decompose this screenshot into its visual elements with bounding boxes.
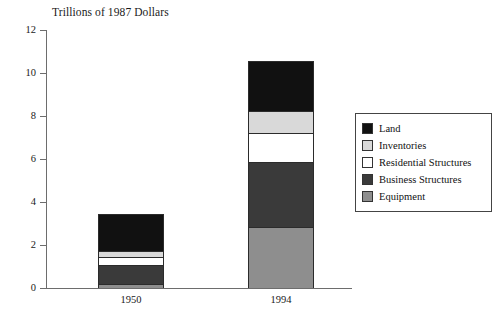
y-axis-tick-label: 8 [2,111,36,121]
y-axis-tick-label-wrap: 8 [0,111,36,121]
bar-segment [249,227,313,288]
legend-item-business-structures[interactable]: Business Structures [362,171,485,187]
legend-item-equipment[interactable]: Equipment [362,188,485,204]
y-axis-tick-label: 2 [2,240,36,250]
bar-segment [99,214,163,252]
legend-label: Residential Structures [379,157,471,168]
y-axis-tick-label-wrap: 0 [0,283,36,293]
plot-bars [46,30,352,288]
y-axis-tick-label: 12 [2,25,36,35]
x-axis-label-1994: 1994 [236,294,326,305]
y-axis-tick-label: 6 [2,154,36,164]
y-axis-tick-label-wrap: 4 [0,197,36,207]
legend-swatch-icon [362,174,373,185]
legend-label: Land [379,123,401,134]
y-axis-tick-label: 4 [2,197,36,207]
y-axis-tick-label-wrap: 12 [0,25,36,35]
chart-title: Trillions of 1987 Dollars [52,6,169,18]
y-axis-tick-label: 0 [2,283,36,293]
legend-swatch-icon [362,140,373,151]
bar-segment [99,265,163,283]
y-axis-tick-label-wrap: 2 [0,240,36,250]
legend-item-inventories[interactable]: Inventories [362,137,485,153]
bar-segment [249,133,313,163]
y-axis-tick [40,288,46,289]
y-axis-tick-label-wrap: 6 [0,154,36,164]
legend-swatch-icon [362,191,373,202]
bar-segment [249,61,313,110]
x-axis-line [46,288,352,289]
legend-label: Inventories [379,140,426,151]
legend-label: Equipment [379,191,425,202]
legend-label: Business Structures [379,174,462,185]
legend-item-land[interactable]: Land [362,120,485,136]
bar-1994 [248,61,314,288]
bar-segment [249,111,313,133]
legend-swatch-icon [362,157,373,168]
bar-segment [99,257,163,266]
y-axis-tick-label-wrap: 10 [0,68,36,78]
x-axis-label-1950: 1950 [86,294,176,305]
legend-item-residential-structures[interactable]: Residential Structures [362,154,485,170]
stacked-bar-chart: Trillions of 1987 Dollars 024681012 1950… [0,0,500,327]
bar-segment [99,284,163,288]
chart-legend: LandInventoriesResidential StructuresBus… [355,113,492,212]
y-axis-tick-label: 10 [2,68,36,78]
bar-segment [249,162,313,227]
bar-1950 [98,214,164,288]
legend-swatch-icon [362,123,373,134]
